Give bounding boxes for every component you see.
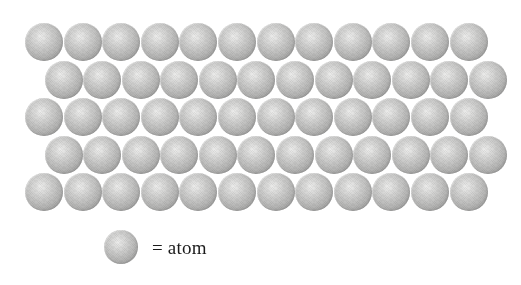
atom-sphere [199, 136, 237, 174]
atom-sphere [372, 173, 410, 211]
atom-sphere [257, 23, 295, 61]
atom-sphere [83, 61, 121, 99]
legend: = atom [104, 230, 207, 264]
atom-sphere [102, 98, 140, 136]
atom-sphere [257, 98, 295, 136]
atom-sphere [122, 61, 160, 99]
atom-row [45, 136, 508, 174]
atom-sphere [334, 98, 372, 136]
atom-sphere [276, 136, 314, 174]
atom-sphere [237, 61, 275, 99]
atom-lattice [0, 0, 521, 225]
atom-sphere [315, 61, 353, 99]
atom-sphere [141, 173, 179, 211]
atom-sphere [334, 23, 372, 61]
atom-sphere [25, 98, 63, 136]
atom-sphere [45, 136, 83, 174]
atom-sphere [295, 173, 333, 211]
atom-sphere [218, 98, 256, 136]
atom-sphere [276, 61, 314, 99]
atom-row [45, 61, 508, 99]
atom-sphere [141, 23, 179, 61]
atom-sphere [179, 23, 217, 61]
atom-sphere [353, 136, 391, 174]
atom-sphere [411, 23, 449, 61]
atom-sphere [179, 173, 217, 211]
atom-sphere [257, 173, 295, 211]
atom-sphere [353, 61, 391, 99]
atom-sphere [295, 23, 333, 61]
atom-sphere [392, 136, 430, 174]
atom-row [25, 173, 488, 211]
atom-sphere [469, 136, 507, 174]
atom-sphere [64, 173, 102, 211]
atom-sphere [102, 173, 140, 211]
atom-sphere [411, 173, 449, 211]
atom-row [25, 23, 488, 61]
atom-sphere [122, 136, 160, 174]
atom-sphere [411, 98, 449, 136]
atom-sphere [450, 98, 488, 136]
atom-sphere [179, 98, 217, 136]
atom-sphere [430, 136, 468, 174]
atom-sphere [392, 61, 430, 99]
atom-sphere [160, 136, 198, 174]
atomic-packing-figure: = atom [0, 0, 521, 285]
atom-sphere [45, 61, 83, 99]
atom-sphere [469, 61, 507, 99]
atom-sphere [450, 23, 488, 61]
atom-sphere [372, 23, 410, 61]
atom-sphere [237, 136, 275, 174]
atom-sphere [218, 173, 256, 211]
atom-sphere [372, 98, 410, 136]
atom-sphere [25, 23, 63, 61]
atom-sphere [83, 136, 121, 174]
legend-label: = atom [152, 238, 207, 257]
atom-sphere [218, 23, 256, 61]
atom-sphere [160, 61, 198, 99]
atom-sphere [64, 98, 102, 136]
legend-atom-swatch-icon [104, 230, 138, 264]
atom-sphere [64, 23, 102, 61]
atom-sphere [295, 98, 333, 136]
atom-sphere [315, 136, 353, 174]
atom-sphere [25, 173, 63, 211]
atom-sphere [141, 98, 179, 136]
atom-sphere [199, 61, 237, 99]
atom-sphere [102, 23, 140, 61]
atom-sphere [430, 61, 468, 99]
atom-sphere [450, 173, 488, 211]
atom-sphere [334, 173, 372, 211]
atom-row [25, 98, 488, 136]
